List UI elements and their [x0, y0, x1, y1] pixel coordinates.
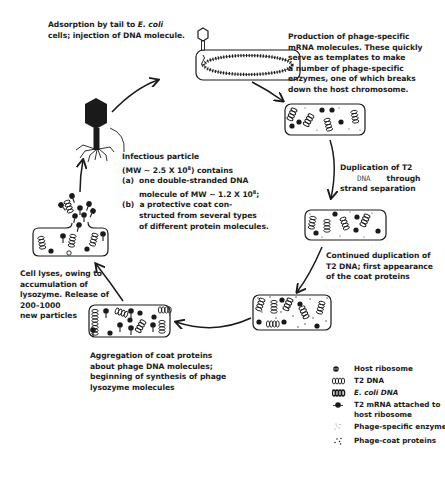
cell-lysis — [33, 192, 108, 256]
step-mrna-production-label: Production of phage-specific mRNA molecu… — [288, 32, 422, 96]
arrow-mrna-to-duplication — [330, 140, 334, 198]
step-adsorption-label: Adsorption by tail to E. coli cells; inj… — [48, 20, 185, 41]
infectious-particle-label: Infectious particle (MW ∼ 2.5 X 108) con… — [122, 152, 269, 232]
phage-coat-proteins-icon — [332, 436, 350, 446]
legend-item-t2-mrna: T2 mRNA attached tohost ribosome — [332, 400, 445, 422]
step-duplication-label: Duplication of T2 DNAthrough strand sepa… — [340, 163, 420, 195]
cell-duplication — [305, 210, 386, 240]
arrow-adsorption-to-mrna — [252, 82, 283, 101]
arrow-lysis-to-particle — [80, 160, 83, 192]
cell-adsorption — [196, 28, 300, 80]
cell-continued-duplication — [253, 295, 331, 330]
phage-enzymes-icon — [332, 422, 350, 432]
host-ribosome-icon — [332, 364, 350, 374]
arrow-continued-to-aggregation — [176, 318, 251, 328]
step-continued-duplication-label: Continued duplication of T2 DNA; first a… — [326, 251, 433, 283]
arrow-duplication-to-continued — [297, 247, 322, 292]
legend-item-t2-dna: T2 DNA — [332, 376, 445, 388]
arrow-phage-to-adsorption — [112, 80, 158, 112]
step-aggregation-label: Aggregation of coat proteins about phage… — [90, 351, 226, 393]
legend-item-phage-enzymes: Phage-specific enzymes — [332, 422, 445, 436]
legend-item-phage-coat: Phage-coat proteins — [332, 436, 445, 448]
legend-item-ecoli-dna: E. coli DNA — [332, 388, 445, 400]
legend-item-host-ribosome: Host ribosome — [332, 364, 445, 376]
step-lysis-label: Cell lyses, owing to accumulation of lys… — [20, 269, 109, 322]
t2-mrna-ribosome-icon — [332, 400, 350, 410]
t2-dna-icon — [332, 376, 350, 386]
legend: Host ribosome T2 DNA E. coli DNA T2 mRNA… — [332, 364, 445, 448]
ecoli-dna-icon — [332, 388, 350, 398]
cell-mrna-production — [285, 104, 365, 135]
